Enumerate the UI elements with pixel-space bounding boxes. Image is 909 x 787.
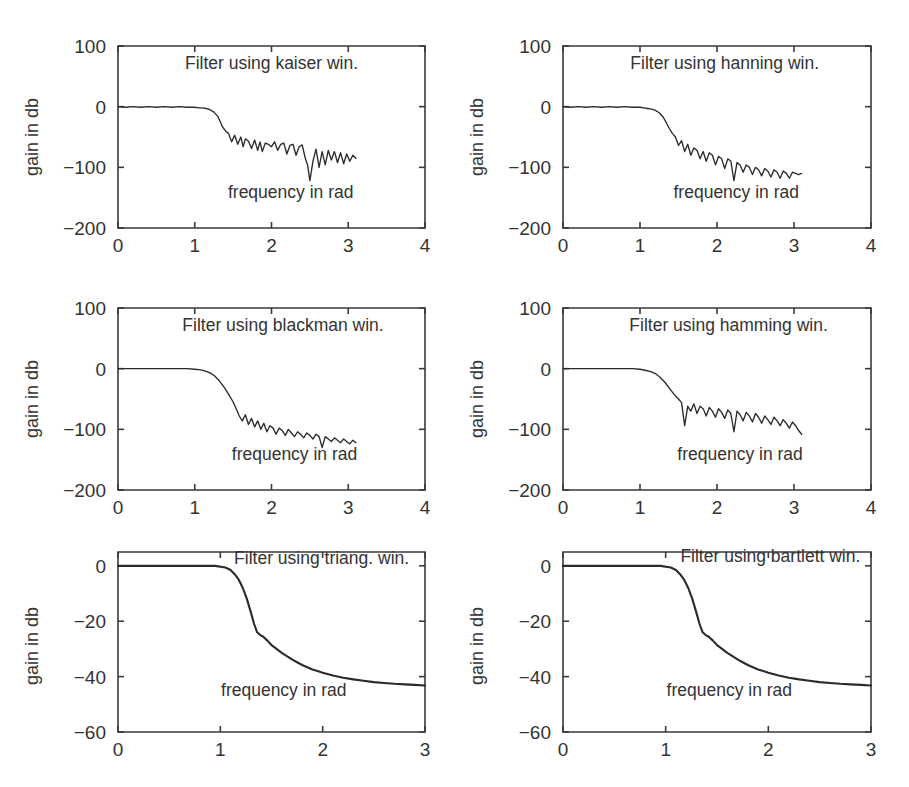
plot-title-annotation: Filter using bartlett win. xyxy=(680,546,860,566)
y-tick-label: 100 xyxy=(74,298,106,319)
x-tick-label: 2 xyxy=(712,497,723,518)
subplot-hamming: 012341000−100−200gain in dbFilter using … xyxy=(445,262,909,524)
x-tick-label: 0 xyxy=(558,739,569,760)
y-tick-label: 0 xyxy=(540,359,551,380)
series-line xyxy=(118,107,356,181)
x-tick-label: 1 xyxy=(189,497,200,518)
y-tick-label: −40 xyxy=(519,667,551,688)
x-tick-label: 3 xyxy=(343,497,354,518)
x-tick-label: 4 xyxy=(420,497,431,518)
y-tick-label: 100 xyxy=(519,36,551,57)
plot-title-annotation: Filter using kaiser win. xyxy=(185,53,358,73)
y-tick-label: 0 xyxy=(540,97,551,118)
y-axis-title: gain in db xyxy=(22,360,42,438)
x-tick-label: 0 xyxy=(558,497,569,518)
plot-frame xyxy=(118,552,425,732)
y-tick-label: 0 xyxy=(540,556,551,577)
x-tick-label: 0 xyxy=(113,235,124,256)
series-line xyxy=(118,369,356,448)
subplot-hanning: 012341000−100−200gain in dbFilter using … xyxy=(445,0,909,262)
x-axis-title-annotation: frequency in rad xyxy=(221,680,347,700)
x-tick-label: 3 xyxy=(789,497,800,518)
y-tick-label: −200 xyxy=(508,480,551,501)
subplot-bartlett: 01230−20−40−60gain in dbFilter using bar… xyxy=(445,524,909,787)
y-tick-label: −20 xyxy=(74,611,106,632)
x-axis-title-annotation: frequency in rad xyxy=(677,444,803,464)
y-axis-title: gain in db xyxy=(467,98,487,176)
plot-frame xyxy=(563,552,871,732)
subplot-hamming-svg: 012341000−100−200gain in dbFilter using … xyxy=(445,262,909,524)
subplot-kaiser-svg: 012341000−100−200gain in dbFilter using … xyxy=(0,0,455,262)
y-tick-label: 100 xyxy=(74,36,106,57)
x-axis-title-annotation: frequency in rad xyxy=(232,444,358,464)
series-line xyxy=(563,369,802,435)
subplot-triang-svg: 01230−20−40−60gain in dbFilter using tri… xyxy=(0,524,455,787)
series-line xyxy=(563,566,871,686)
y-tick-label: 0 xyxy=(95,97,106,118)
x-tick-label: 2 xyxy=(763,739,774,760)
subplot-blackman: 012341000−100−200gain in dbFilter using … xyxy=(0,262,455,524)
x-tick-label: 1 xyxy=(189,235,200,256)
x-axis-title-annotation: frequency in rad xyxy=(667,680,793,700)
chart-region-blackman: 012341000−100−200gain in dbFilter using … xyxy=(22,298,431,518)
x-tick-label: 1 xyxy=(635,235,646,256)
y-tick-label: −20 xyxy=(519,611,551,632)
subplot-kaiser: 012341000−100−200gain in dbFilter using … xyxy=(0,0,455,262)
y-tick-label: −100 xyxy=(63,157,106,178)
y-tick-label: −100 xyxy=(508,419,551,440)
y-tick-label: 100 xyxy=(519,298,551,319)
y-tick-label: −60 xyxy=(519,722,551,743)
x-tick-label: 3 xyxy=(866,739,877,760)
y-tick-label: 0 xyxy=(95,556,106,577)
x-tick-label: 3 xyxy=(789,235,800,256)
y-tick-label: −200 xyxy=(63,480,106,501)
x-tick-label: 4 xyxy=(866,235,877,256)
y-tick-label: −200 xyxy=(63,218,106,239)
x-tick-label: 4 xyxy=(866,497,877,518)
subplot-bartlett-svg: 01230−20−40−60gain in dbFilter using bar… xyxy=(445,524,909,787)
x-tick-label: 0 xyxy=(113,739,124,760)
x-tick-label: 3 xyxy=(343,235,354,256)
x-tick-label: 1 xyxy=(635,497,646,518)
y-axis-title: gain in db xyxy=(22,607,42,685)
y-tick-label: −200 xyxy=(508,218,551,239)
y-tick-label: −100 xyxy=(63,419,106,440)
x-tick-label: 3 xyxy=(420,739,431,760)
subplot-triang: 01230−20−40−60gain in dbFilter using tri… xyxy=(0,524,455,787)
plot-title-annotation: Filter using triang. win. xyxy=(234,548,409,568)
chart-region-triang: 01230−20−40−60gain in dbFilter using tri… xyxy=(22,548,430,760)
y-tick-label: −100 xyxy=(508,157,551,178)
x-tick-label: 0 xyxy=(558,235,569,256)
series-line xyxy=(563,107,802,181)
chart-region-kaiser: 012341000−100−200gain in dbFilter using … xyxy=(22,36,431,256)
chart-region-hamming: 012341000−100−200gain in dbFilter using … xyxy=(467,298,877,518)
subplot-hanning-svg: 012341000−100−200gain in dbFilter using … xyxy=(445,0,909,262)
chart-region-bartlett: 01230−20−40−60gain in dbFilter using bar… xyxy=(467,546,876,760)
plot-title-annotation: Filter using blackman win. xyxy=(182,315,383,335)
y-tick-label: −40 xyxy=(74,667,106,688)
y-axis-title: gain in db xyxy=(467,360,487,438)
x-tick-label: 2 xyxy=(712,235,723,256)
subplot-blackman-svg: 012341000−100−200gain in dbFilter using … xyxy=(0,262,455,524)
chart-region-hanning: 012341000−100−200gain in dbFilter using … xyxy=(467,36,877,256)
x-axis-title-annotation: frequency in rad xyxy=(674,182,800,202)
plot-title-annotation: Filter using hamming win. xyxy=(629,315,827,335)
y-axis-title: gain in db xyxy=(22,98,42,176)
x-tick-label: 2 xyxy=(266,235,277,256)
x-tick-label: 2 xyxy=(266,497,277,518)
figure-canvas: 012341000−100−200gain in dbFilter using … xyxy=(0,0,909,787)
y-tick-label: −60 xyxy=(74,722,106,743)
x-tick-label: 2 xyxy=(317,739,328,760)
y-axis-title: gain in db xyxy=(467,607,487,685)
plot-title-annotation: Filter using hanning win. xyxy=(630,53,819,73)
x-tick-label: 1 xyxy=(660,739,671,760)
x-axis-title-annotation: frequency in rad xyxy=(228,182,354,202)
y-tick-label: 0 xyxy=(95,359,106,380)
x-tick-label: 4 xyxy=(420,235,431,256)
series-line xyxy=(118,566,425,686)
x-tick-label: 1 xyxy=(215,739,226,760)
x-tick-label: 0 xyxy=(113,497,124,518)
